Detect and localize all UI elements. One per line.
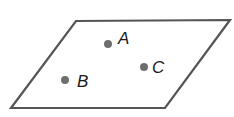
point-dot-c xyxy=(140,63,148,71)
point-label-b: B xyxy=(77,72,88,91)
point-b: B xyxy=(61,72,88,91)
points-layer: ABC xyxy=(61,29,165,91)
point-a: A xyxy=(104,29,129,48)
point-label-a: A xyxy=(117,29,129,48)
point-dot-a xyxy=(104,40,112,48)
point-c: C xyxy=(140,58,165,77)
point-dot-b xyxy=(61,76,69,84)
point-label-c: C xyxy=(152,58,165,77)
plane-diagram: ABC xyxy=(0,0,234,117)
